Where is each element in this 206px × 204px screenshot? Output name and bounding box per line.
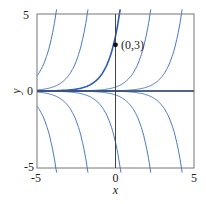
- solution-curve: [37, 91, 151, 173]
- y-axis-label: y: [9, 88, 23, 95]
- solution-curves-chart: (0,3) 5 0 -5 -5 0 5 x y: [0, 0, 206, 204]
- solution-curve: [37, 9, 57, 75]
- x-axis-label: x: [112, 183, 119, 197]
- solution-curve: [37, 91, 182, 173]
- highlighted-solution-curve: [37, 9, 120, 91]
- solution-curve: [37, 106, 57, 172]
- x-tick-5: 5: [191, 171, 197, 185]
- initial-point-marker: [113, 42, 118, 47]
- solution-curve: [37, 9, 88, 90]
- x-tick-neg5: -5: [31, 171, 41, 185]
- y-tick-0: 0: [27, 84, 33, 98]
- solution-curve: [37, 91, 121, 173]
- solution-curve: [37, 9, 182, 91]
- y-tick-5: 5: [23, 8, 29, 22]
- solution-curve: [37, 92, 88, 173]
- point-label: (0,3): [121, 38, 144, 52]
